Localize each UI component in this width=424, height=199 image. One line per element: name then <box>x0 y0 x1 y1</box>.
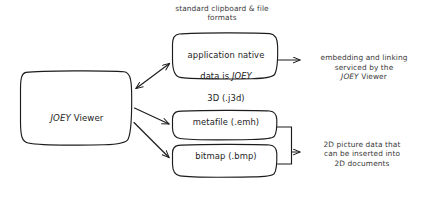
node-native-line2-joey: JOEY <box>232 71 252 81</box>
node-metafile-label: metafile (.emh) <box>176 117 276 128</box>
node-native-label: application native data is JOEY 3D (.j3d… <box>176 39 276 104</box>
node-viewer-label-joey: JOEY <box>50 113 70 123</box>
node-bitmap-label: bitmap (.bmp) <box>176 151 276 162</box>
node-native-line3: 3D (.j3d) <box>207 93 245 103</box>
note-embedding-suffix: Viewer <box>359 72 387 81</box>
note-2d-picture-data: 2D picture data that can be inserted int… <box>302 140 422 168</box>
diagram-canvas: standard clipboard & file formats JOEY V… <box>0 0 424 199</box>
node-viewer-label: JOEY Viewer <box>22 102 132 124</box>
note-embedding-joey: JOEY <box>341 72 359 81</box>
note-embedding-linking: embedding and linking serviced by the JO… <box>306 44 422 82</box>
edge-viewer-native <box>136 64 170 89</box>
note-embedding-prefix: embedding and linking serviced by the <box>321 53 408 71</box>
edge-viewer-bitmap <box>134 123 169 158</box>
node-native-line1: application native <box>188 50 265 60</box>
edge-bracket-2d <box>278 127 301 164</box>
node-viewer-label-viewer: Viewer <box>71 113 104 123</box>
caption-clipboard-formats: standard clipboard & file formats <box>152 4 292 23</box>
node-native-line2-prefix: data is <box>200 71 232 81</box>
edge-viewer-metafile <box>135 108 170 124</box>
